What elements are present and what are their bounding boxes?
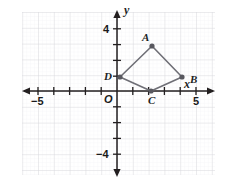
origin-label: O	[104, 94, 113, 105]
y-tick-label-neg4: −4	[96, 149, 109, 160]
point-label-b: B	[190, 74, 197, 85]
point-d-marker	[117, 74, 122, 79]
point-a-marker	[149, 43, 154, 48]
y-axis-label: y	[124, 4, 129, 16]
point-label-c: C	[148, 95, 155, 106]
point-label-d: D	[104, 71, 112, 82]
coordinate-plane-figure	[0, 0, 237, 188]
x-tick-label-neg5: −5	[31, 96, 44, 107]
point-label-a: A	[142, 32, 149, 43]
y-tick-label-4: 4	[103, 24, 109, 35]
grid	[22, 12, 215, 175]
x-tick-label-5: 5	[193, 96, 199, 107]
point-c-marker	[148, 88, 153, 93]
